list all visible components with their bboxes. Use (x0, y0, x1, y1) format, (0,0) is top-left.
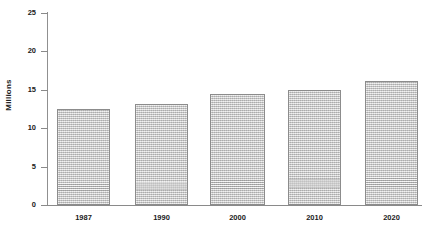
y-axis-tick: 0 (41, 205, 48, 206)
x-axis-tick-label: 2000 (210, 213, 265, 222)
y-axis-tick-label: 15 (28, 85, 36, 94)
bar (288, 90, 341, 205)
bar (57, 109, 110, 205)
y-axis-tick-label: 25 (28, 8, 36, 17)
bar (365, 81, 418, 205)
y-axis-title: Millions (2, 62, 16, 128)
y-axis-tick-mark (41, 205, 48, 206)
bar (135, 104, 188, 205)
plot-area (47, 13, 422, 205)
x-axis-tick-label: 1990 (135, 213, 188, 222)
x-axis-tick-label: 2020 (365, 213, 418, 222)
y-axis-tick-label: 0 (32, 200, 36, 209)
y-axis-tick-label: 5 (32, 162, 36, 171)
y-axis-tick-label: 10 (28, 123, 36, 132)
x-axis-tick-label: 2010 (288, 213, 341, 222)
bar-chart: Millions 0510152025 19871990200020102020 (0, 0, 428, 237)
x-axis-tick-label: 1987 (57, 213, 110, 222)
y-axis-tick-label: 20 (28, 46, 36, 55)
bar (210, 94, 265, 205)
x-axis-line (47, 205, 422, 206)
